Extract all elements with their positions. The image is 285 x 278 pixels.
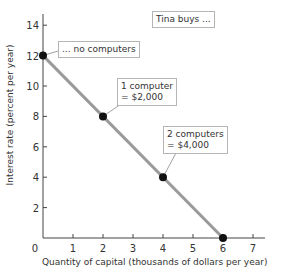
y-tick-label: 14 bbox=[26, 20, 39, 31]
y-tick-label: 10 bbox=[26, 81, 39, 92]
callout-no-computers: ... no computers bbox=[58, 41, 140, 58]
point-0-computers bbox=[39, 52, 47, 60]
x-tick-label: 7 bbox=[250, 243, 256, 254]
x-tick-label: 2 bbox=[100, 243, 106, 254]
y-tick-label: 12 bbox=[26, 51, 39, 62]
leader-lines bbox=[43, 51, 176, 177]
y-tick-label: 8 bbox=[33, 111, 39, 122]
callout-line-1: 1 computer bbox=[121, 81, 173, 92]
point-2-computers bbox=[159, 173, 167, 181]
y-tick-label: 4 bbox=[33, 172, 39, 183]
callout-text: ... no computers bbox=[62, 44, 136, 54]
x-tick-label: 6 bbox=[220, 243, 226, 254]
callout-tina-buys: Tina buys ... bbox=[152, 11, 215, 28]
x-tick-label: 1 bbox=[70, 243, 76, 254]
x-axis-title: Quantity of capital (thousands of dollar… bbox=[42, 257, 267, 267]
origin-label: 0 bbox=[32, 243, 38, 254]
callout-line-2: = $4,000 bbox=[167, 140, 224, 151]
point-1-computer bbox=[99, 112, 107, 120]
callout-line-1: 2 computers bbox=[167, 129, 224, 140]
callout-line-2: = $2,000 bbox=[121, 92, 173, 103]
y-axis-title: Interest rate (percent per year) bbox=[5, 45, 15, 186]
x-tick-label: 3 bbox=[130, 243, 136, 254]
y-tick-label: 2 bbox=[33, 203, 39, 214]
callout-one-computer: 1 computer = $2,000 bbox=[117, 78, 177, 106]
y-tick-label: 6 bbox=[33, 142, 39, 153]
x-tick-label: 5 bbox=[190, 243, 196, 254]
callout-text: Tina buys ... bbox=[156, 14, 211, 24]
callout-two-computers: 2 computers = $4,000 bbox=[163, 126, 228, 154]
x-tick-label: 4 bbox=[160, 243, 166, 254]
point-x-intercept bbox=[219, 234, 227, 242]
chart: 2 4 6 8 10 12 14 0 1 2 3 4 5 6 7 Quantit… bbox=[0, 0, 285, 278]
